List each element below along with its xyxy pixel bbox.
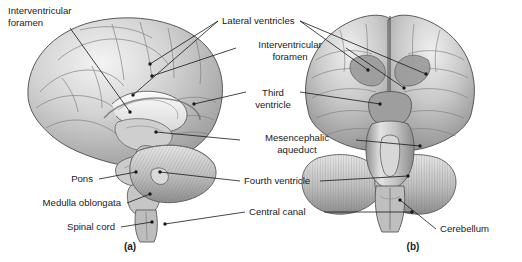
medulla-oblongata-leader-dot	[148, 192, 151, 195]
label-cerebellum: Cerebellum	[440, 223, 489, 234]
interventricular-foramen-center-leader-r-dot	[402, 86, 405, 89]
lateral-ventricles-leader-1-dot	[148, 62, 151, 65]
cerebellum-leader-dot	[398, 198, 401, 201]
label-medulla-oblongata: Medulla oblongata	[43, 197, 122, 208]
fourth-ventricle-leader-r-dot	[406, 174, 409, 177]
mesencephalic-aqueduct-leader-r-dot	[418, 144, 421, 147]
label-lateral-ventricles: Lateral ventricles	[222, 15, 295, 26]
brain-ventricles-figure: InterventricularforamenLateral ventricle…	[0, 0, 522, 262]
mesencephalic-aqueduct-leader-l-dot	[154, 130, 157, 133]
panel-b-posterior-brain	[298, 15, 474, 232]
spinal-cord-leader-dot	[150, 220, 153, 223]
interventricular-foramen-left-leader-dot	[128, 110, 131, 113]
lateral-ventricles-leader-3-dot	[366, 68, 369, 71]
central-canal-leader-l-dot	[163, 222, 166, 225]
third-ventricle-leader-r-dot	[378, 102, 381, 105]
fourth-ventricle-b	[380, 135, 399, 177]
label-fourth-ventricle: Fourth ventricle	[244, 175, 310, 186]
label-central-canal: Central canal	[249, 206, 306, 217]
panel-label-a: (a)	[124, 241, 136, 252]
lateral-ventricles-leader-4-dot	[424, 72, 427, 75]
interventricular-foramen-center-leader-l-dot	[150, 74, 153, 77]
third-ventricle-leader-l-dot	[192, 102, 195, 105]
label-pons: Pons	[71, 173, 93, 184]
lateral-ventricles-leader-2-dot	[131, 93, 134, 96]
fourth-ventricle-leader-l-dot	[158, 170, 161, 173]
panel-label-b: (b)	[407, 241, 420, 252]
pons-leader-dot	[134, 170, 137, 173]
label-spinal-cord: Spinal cord	[67, 221, 115, 232]
